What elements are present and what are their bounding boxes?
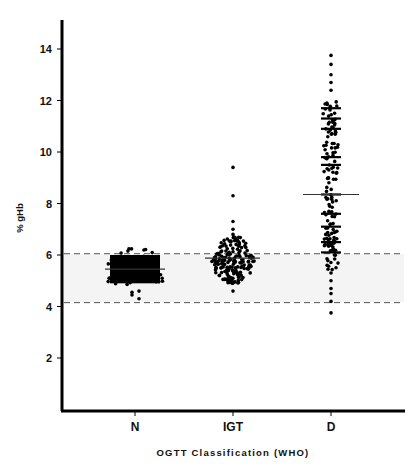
- data-point: [325, 264, 329, 268]
- data-point: [118, 278, 122, 282]
- x-axis-title: OGTT Classification (WHO): [157, 447, 310, 458]
- data-point: [127, 275, 131, 279]
- data-point: [325, 237, 329, 241]
- data-point: [231, 233, 235, 237]
- data-point: [330, 268, 334, 272]
- data-point: [130, 247, 134, 251]
- data-point: [336, 261, 340, 265]
- data-point: [333, 122, 337, 126]
- data-point: [110, 258, 114, 262]
- data-point: [148, 273, 152, 277]
- data-point: [326, 135, 330, 139]
- data-point: [236, 238, 240, 242]
- data-point: [245, 249, 249, 253]
- data-point: [328, 237, 332, 241]
- data-point: [335, 171, 339, 175]
- series-igt: [210, 166, 256, 293]
- data-point: [329, 88, 333, 92]
- data-point: [328, 120, 332, 124]
- data-point: [124, 262, 128, 266]
- y-tick-label: 14: [40, 43, 53, 55]
- data-point: [226, 253, 230, 257]
- data-point: [329, 300, 333, 304]
- data-point: [222, 239, 226, 243]
- data-point: [229, 252, 233, 256]
- data-point: [150, 278, 154, 282]
- data-point: [326, 177, 330, 181]
- data-point: [323, 102, 327, 106]
- data-point: [159, 273, 163, 277]
- data-point: [333, 160, 337, 164]
- data-point: [234, 271, 238, 275]
- data-point: [144, 256, 148, 260]
- data-point: [326, 268, 330, 272]
- data-point: [130, 293, 134, 297]
- data-point: [113, 255, 117, 259]
- y-tick-label: 4: [46, 301, 53, 313]
- data-point: [321, 112, 325, 116]
- data-point: [242, 263, 246, 267]
- data-point: [106, 280, 110, 284]
- data-point: [141, 255, 145, 259]
- data-point: [119, 273, 123, 277]
- y-axis-ticks: 2468101214: [40, 43, 62, 364]
- y-tick-label: 8: [46, 198, 52, 210]
- data-point: [229, 243, 233, 247]
- data-point: [157, 280, 161, 284]
- data-point: [220, 266, 224, 270]
- data-point: [334, 100, 338, 104]
- data-point: [231, 194, 235, 198]
- data-point: [325, 257, 329, 261]
- data-point: [245, 254, 249, 258]
- data-point: [107, 262, 111, 266]
- y-tick-label: 6: [46, 249, 52, 261]
- data-point: [335, 229, 339, 233]
- data-point: [249, 264, 253, 268]
- data-point: [219, 245, 223, 249]
- data-point: [154, 258, 158, 262]
- data-point: [225, 268, 229, 272]
- data-point: [237, 244, 241, 248]
- data-point: [237, 251, 241, 255]
- data-point: [331, 245, 335, 249]
- data-point: [223, 278, 227, 282]
- data-point: [247, 260, 251, 264]
- data-point: [334, 177, 338, 181]
- data-point: [322, 144, 326, 148]
- data-point: [325, 190, 329, 194]
- data-point: [137, 289, 141, 293]
- data-point: [107, 277, 111, 281]
- data-point: [119, 251, 123, 255]
- data-point: [239, 273, 243, 277]
- data-point: [150, 251, 154, 255]
- data-point: [234, 266, 238, 270]
- data-point: [223, 263, 227, 267]
- data-point: [325, 140, 329, 144]
- data-point: [217, 252, 221, 256]
- data-point: [237, 281, 241, 285]
- data-point: [244, 246, 248, 250]
- data-point: [244, 241, 248, 245]
- data-point: [219, 241, 223, 245]
- data-point: [226, 261, 230, 265]
- data-point: [330, 232, 334, 236]
- data-point: [125, 283, 129, 287]
- data-point: [329, 311, 333, 315]
- data-point: [142, 248, 146, 252]
- data-point: [152, 263, 156, 267]
- data-point: [220, 249, 224, 253]
- data-point: [161, 280, 165, 284]
- data-point: [231, 247, 235, 251]
- data-point: [323, 148, 327, 152]
- data-point: [132, 261, 136, 265]
- data-point: [152, 274, 156, 278]
- data-point: [334, 199, 338, 203]
- data-point: [329, 292, 333, 296]
- y-tick-label: 2: [46, 352, 52, 364]
- data-point: [235, 254, 239, 258]
- data-point: [118, 265, 122, 269]
- data-point: [231, 166, 235, 170]
- data-point: [330, 198, 334, 202]
- data-point: [332, 142, 336, 146]
- data-point: [330, 205, 334, 209]
